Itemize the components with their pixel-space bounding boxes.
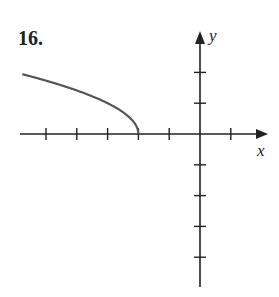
y-axis xyxy=(195,31,205,287)
axis-ticks xyxy=(46,72,231,257)
x-axis-arrow-icon xyxy=(256,129,268,139)
graph-figure: 16. x y xyxy=(0,0,279,297)
y-axis-arrow-icon xyxy=(195,31,205,44)
function-curve xyxy=(22,74,138,134)
problem-number: 16. xyxy=(18,27,43,49)
x-axis-label: x xyxy=(256,141,265,160)
y-axis-label: y xyxy=(207,26,217,45)
